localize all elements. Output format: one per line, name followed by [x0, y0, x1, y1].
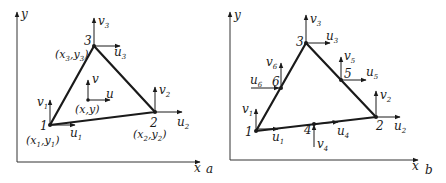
- interior-point: v u (x,y): [75, 72, 114, 116]
- x-axis-label: x: [412, 159, 419, 173]
- node-coord: (x2,y2): [133, 128, 166, 143]
- node-4: 4 v4 u4: [303, 122, 349, 153]
- node-number: 4: [303, 123, 312, 137]
- v-label: v2: [159, 83, 171, 99]
- node-coord: (x3,y3): [55, 48, 88, 63]
- u-label: u3: [326, 29, 339, 45]
- node-1: 1 v1 u1: [242, 102, 284, 146]
- u-label: u4: [337, 124, 349, 140]
- u-label: u3: [114, 45, 127, 61]
- node-number: 6: [272, 75, 280, 89]
- triangular-element-diagram: y x a 1 v1 u1 (x1,y1) 2 v2 u2 (x2,y2): [0, 0, 446, 183]
- v-label: v1: [242, 102, 253, 118]
- u-label: u1: [70, 126, 82, 142]
- node-3: 3 v3 u3 (x3,y3): [55, 14, 127, 63]
- u-label: u1: [272, 130, 284, 146]
- node-2: 2 v2 u2: [374, 88, 407, 135]
- v-label: v2: [380, 88, 392, 104]
- v-label: v6: [266, 55, 278, 71]
- u-label: u2: [394, 119, 407, 135]
- panel-label-b: b: [425, 163, 433, 177]
- point-coord: (x,y): [75, 103, 100, 116]
- node-5: 5 v5 u5: [339, 49, 379, 82]
- panel-a: y x a 1 v1 u1 (x1,y1) 2 v2 u2 (x2,y2): [17, 7, 213, 176]
- v-label: v3: [310, 12, 322, 28]
- x-axis-label: x: [194, 161, 201, 175]
- node-number: 3: [296, 35, 304, 49]
- node-number: 1: [40, 119, 48, 133]
- u-label: u6: [250, 73, 263, 89]
- panel-b: y x b 1 v1 u1 2 v2 u2 3 v3: [230, 8, 433, 177]
- node-number: 2: [375, 119, 384, 133]
- v-label: v4: [317, 137, 328, 153]
- u-label: u2: [177, 115, 190, 131]
- v-label: v3: [98, 14, 110, 30]
- node-coord: (x1,y1): [26, 134, 59, 149]
- v-label: v: [92, 72, 99, 86]
- v-label: v5: [344, 49, 356, 65]
- node-6: 6 v6 u6: [250, 55, 283, 90]
- node-3: 3 v3 u3: [296, 12, 339, 49]
- y-axis-label: y: [20, 7, 28, 21]
- panel-label-a: a: [206, 162, 213, 176]
- node-number: 3: [84, 34, 92, 48]
- node-number: 5: [344, 67, 352, 81]
- u-label: u: [106, 87, 114, 101]
- u-label: u5: [366, 65, 379, 81]
- node-number: 1: [245, 125, 253, 139]
- y-axis-label: y: [233, 8, 241, 22]
- v-label: v1: [37, 95, 48, 111]
